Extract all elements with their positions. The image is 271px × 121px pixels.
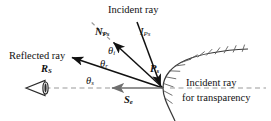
theta-s-sub: s bbox=[91, 79, 94, 86]
reflected-vector-label: RS bbox=[41, 63, 52, 75]
reflected-ray-title: Reflected ray bbox=[9, 50, 65, 61]
eye-vector-sub: e bbox=[130, 98, 133, 105]
theta-s-label: θs bbox=[86, 75, 94, 87]
reflected-vector-sub: S bbox=[48, 67, 52, 74]
incident-ray-title: Incident ray bbox=[108, 4, 158, 15]
incident-vector-label: IPs bbox=[140, 26, 150, 38]
incident-vector-sub: Ps bbox=[144, 30, 151, 37]
reflected-vector-base: R bbox=[41, 63, 48, 74]
surface-point-label: Ps bbox=[150, 63, 159, 75]
normal-vector-base: N bbox=[95, 26, 103, 37]
normal-vector-label: NPs bbox=[95, 26, 109, 38]
eye-icon bbox=[26, 81, 48, 96]
surface-point-sub: s bbox=[156, 67, 159, 74]
transparency-label-line1: Incident ray bbox=[186, 77, 236, 88]
theta-i-sub: i bbox=[113, 49, 115, 56]
theta-r-label: θr bbox=[100, 58, 108, 70]
normal-vector-sub: Ps bbox=[103, 30, 110, 37]
transparency-label-line2: for transparency bbox=[182, 92, 251, 103]
eye-vector-label: Se bbox=[124, 94, 133, 106]
ray-optics-diagram: Incident ray IPs NPs Reflected ray RS θi… bbox=[0, 0, 271, 121]
theta-r-sub: r bbox=[105, 62, 108, 69]
theta-i-label: θi bbox=[108, 45, 115, 57]
